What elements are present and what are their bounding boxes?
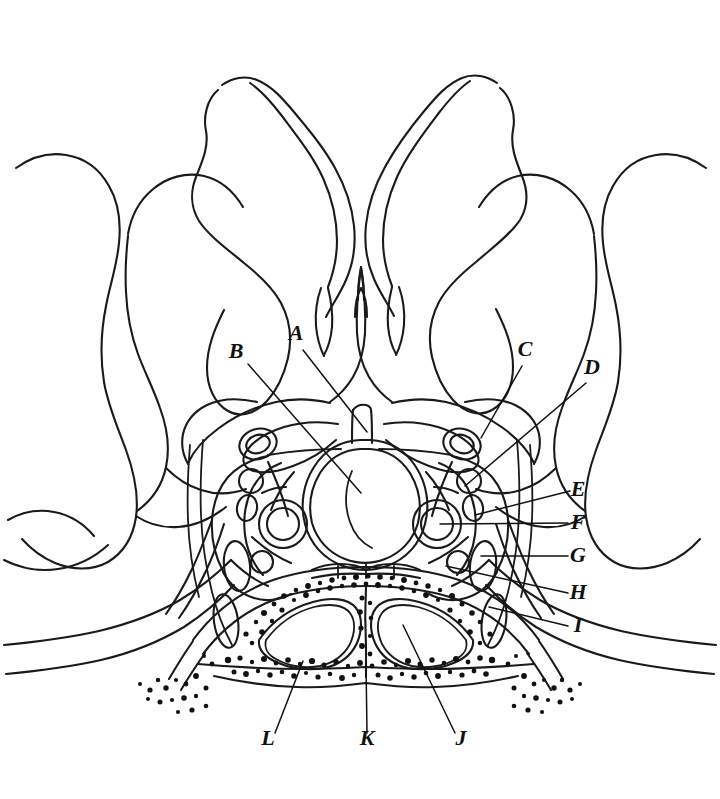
label-a: A [287, 320, 304, 345]
label-h: H [568, 579, 587, 604]
label-f: F [570, 509, 586, 534]
label-d: D [583, 354, 600, 379]
label-l: L [260, 725, 274, 750]
label-b: B [228, 338, 244, 363]
label-j: J [455, 725, 468, 750]
label-e: E [570, 476, 586, 501]
label-g: G [570, 542, 586, 567]
leader-line-k [366, 663, 367, 733]
label-c: C [518, 336, 533, 361]
anatomical-figure: ABCDEFGHIJKL [0, 0, 720, 799]
label-k: K [359, 725, 376, 750]
anatomy-diagram-svg: ABCDEFGHIJKL [0, 0, 720, 799]
leader-line-f [440, 523, 568, 524]
label-i: I [573, 612, 584, 637]
